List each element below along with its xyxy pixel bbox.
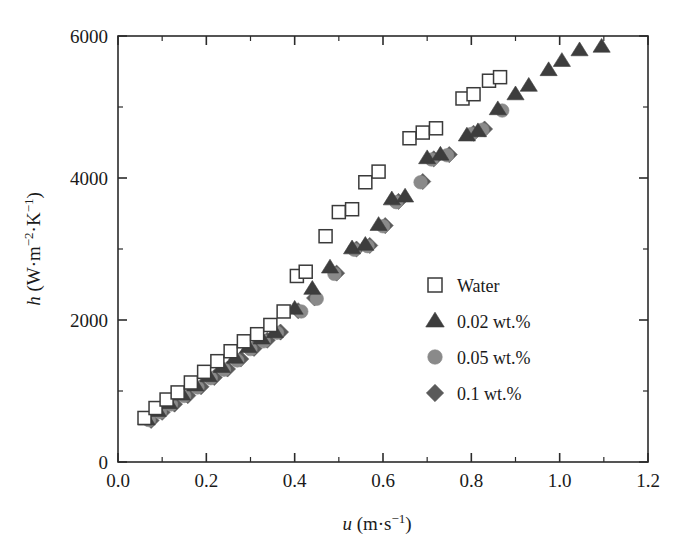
y-axis-title: h (W·m−2·K−1) (21, 192, 46, 306)
y-tick-label: 6000 (70, 26, 108, 47)
data-point (553, 53, 570, 67)
data-point (414, 176, 428, 190)
data-point (198, 365, 211, 378)
data-point (416, 126, 429, 139)
legend-marker-2 (428, 350, 443, 365)
x-tick-label: 1.2 (636, 470, 660, 491)
data-point (520, 77, 537, 91)
data-point (359, 176, 372, 189)
data-point (593, 38, 610, 52)
data-point (211, 355, 224, 368)
data-point (224, 345, 237, 358)
data-point (264, 318, 277, 331)
data-point (372, 165, 385, 178)
legend-label-2: 0.05 wt.% (457, 348, 531, 368)
data-point (299, 265, 312, 278)
data-point (184, 376, 197, 389)
legend-label-3: 0.1 wt.% (457, 384, 522, 404)
data-point (571, 42, 588, 56)
data-point (237, 335, 250, 348)
data-point (430, 122, 443, 135)
data-point (467, 88, 480, 101)
data-point (494, 71, 507, 84)
x-tick-label: 0.6 (371, 470, 395, 491)
data-point (507, 86, 524, 100)
x-axis-title: u (m·s−1) (342, 511, 411, 536)
data-point (332, 206, 345, 219)
data-point (277, 305, 290, 318)
legend-marker-1 (426, 312, 444, 327)
y-tick-label: 2000 (70, 310, 108, 331)
x-tick-label: 0.4 (283, 470, 307, 491)
scatter-plot-figure: 0.00.20.40.60.81.01.20200040006000u (m·s… (0, 0, 686, 546)
data-point (304, 281, 321, 295)
data-point (251, 328, 264, 341)
y-tick-label: 4000 (70, 168, 108, 189)
x-tick-label: 1.0 (548, 470, 572, 491)
x-tick-label: 0.0 (106, 470, 130, 491)
legend-label-1: 0.02 wt.% (457, 312, 531, 332)
data-point (319, 230, 332, 243)
legend-label-0: Water (457, 276, 500, 296)
data-point (403, 132, 416, 145)
y-tick-label: 0 (99, 452, 109, 473)
legend-marker-3 (426, 384, 443, 401)
x-tick-label: 0.2 (194, 470, 218, 491)
x-tick-label: 0.8 (459, 470, 483, 491)
legend-marker-0 (428, 278, 442, 292)
data-point (346, 203, 359, 216)
data-point (171, 386, 184, 399)
plot-canvas: 0.00.20.40.60.81.01.20200040006000u (m·s… (0, 0, 686, 546)
plot-frame (118, 36, 648, 462)
series-water (138, 71, 507, 425)
